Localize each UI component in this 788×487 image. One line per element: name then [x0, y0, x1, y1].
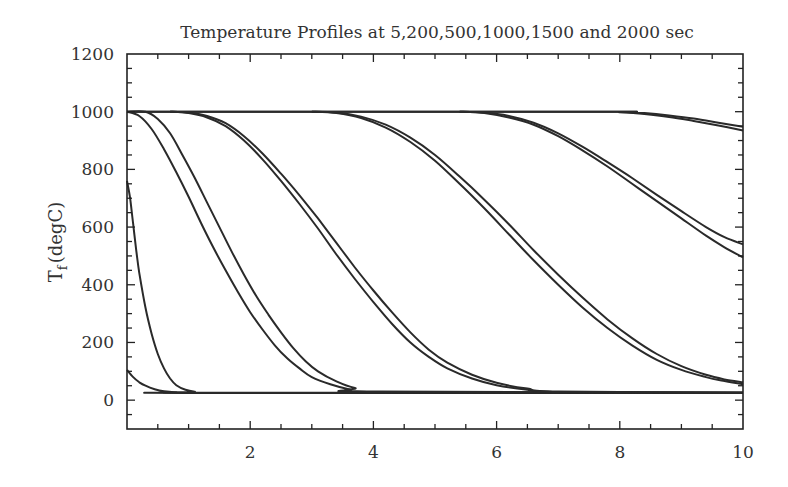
- axis-ticks: [127, 54, 743, 429]
- series-line: [312, 112, 743, 383]
- plot-frame: [127, 54, 743, 429]
- y-tick-label: 1200: [71, 44, 114, 64]
- y-tick-label: 400: [82, 275, 114, 295]
- x-tick-label: 2: [245, 442, 256, 462]
- series-line: [127, 370, 743, 393]
- y-tick-label: 200: [82, 332, 114, 352]
- series-line: [127, 112, 743, 127]
- x-axis: 246810: [245, 442, 754, 462]
- y-axis-label: Tf(degC): [45, 202, 70, 282]
- x-tick-label: 8: [614, 442, 625, 462]
- series-line: [460, 112, 743, 258]
- y-tick-label: 800: [82, 159, 114, 179]
- x-tick-label: 6: [491, 442, 502, 462]
- y-tick-label: 1000: [71, 102, 114, 122]
- series-line: [170, 112, 743, 393]
- y-axis: 020040060080010001200: [71, 44, 114, 410]
- curves: [127, 111, 743, 393]
- y-tick-label: 0: [103, 390, 114, 410]
- x-tick-label: 10: [732, 442, 754, 462]
- chart: Temperature Profiles at 5,200,500,1000,1…: [0, 0, 788, 487]
- x-tick-label: 4: [368, 442, 379, 462]
- series-line: [312, 112, 743, 385]
- y-tick-label: 600: [82, 217, 114, 237]
- chart-title: Temperature Profiles at 5,200,500,1000,1…: [180, 22, 694, 42]
- series-line: [460, 112, 743, 245]
- series-line: [170, 112, 743, 393]
- plot-area: [127, 54, 743, 429]
